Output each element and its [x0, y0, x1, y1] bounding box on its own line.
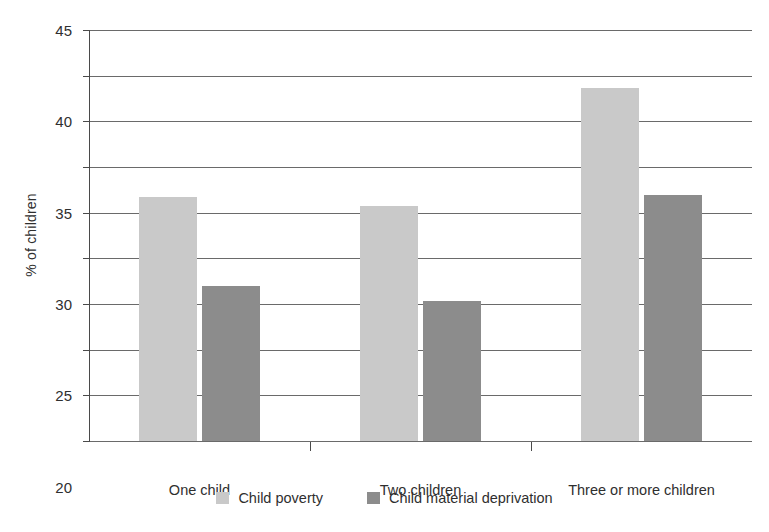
y-axis-tick: 35	[83, 121, 90, 122]
y-axis-tick-label: 35	[55, 204, 72, 221]
bar-child-poverty-1	[139, 197, 197, 441]
y-axis-tick: 45	[83, 30, 90, 31]
chart-legend: Child povertyChild material deprivation	[0, 490, 769, 506]
legend-item-child-material-deprivation[interactable]: Child material deprivation	[367, 490, 553, 506]
y-axis-tick-label: 40	[55, 113, 72, 130]
y-axis-tick: 15	[83, 304, 90, 305]
bar-child-poverty-3	[581, 88, 639, 441]
legend-label: Child poverty	[238, 490, 323, 506]
gridline	[89, 167, 752, 168]
gridline	[89, 76, 752, 77]
y-axis-tick: 20	[83, 258, 90, 259]
y-axis-tick-label: 45	[55, 22, 72, 39]
bar-child-material-deprivation-3	[644, 195, 702, 441]
y-axis-tick: 5	[83, 395, 90, 396]
y-axis-tick: 10	[83, 350, 90, 351]
gridline	[89, 441, 752, 442]
y-axis-tick-label: 30	[55, 296, 72, 313]
gridline	[89, 30, 752, 31]
y-axis-tick: 25	[83, 213, 90, 214]
legend-swatch-icon	[367, 492, 380, 504]
bar-child-material-deprivation-2	[423, 301, 481, 441]
y-axis-tick: 30	[83, 167, 90, 168]
bar-child-material-deprivation-1	[202, 286, 260, 441]
gridline	[89, 121, 752, 122]
y-axis-tick-label: 25	[55, 387, 72, 404]
y-axis-title: % of children	[18, 0, 44, 470]
y-axis-tick: 0	[83, 441, 90, 442]
x-axis-tick	[310, 442, 311, 451]
bar-child-poverty-2	[360, 206, 418, 441]
plot-area: 051015202530354045 One childTwo children…	[89, 30, 752, 441]
y-axis-tick: 40	[83, 76, 90, 77]
x-axis-tick	[531, 442, 532, 451]
bar-chart-figure: % of children 051015202530354045 One chi…	[0, 0, 769, 532]
legend-swatch-icon	[216, 492, 229, 504]
legend-label: Child material deprivation	[389, 490, 553, 506]
y-axis-line	[89, 30, 90, 442]
legend-item-child-poverty[interactable]: Child poverty	[216, 490, 323, 506]
